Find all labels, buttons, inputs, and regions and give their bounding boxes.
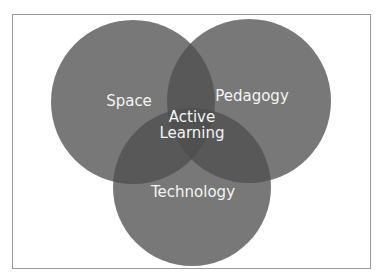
venn-circles <box>51 19 331 266</box>
label-space: Space <box>106 92 152 110</box>
label-technology: Technology <box>150 183 235 201</box>
label-learning: Learning <box>159 124 224 142</box>
label-pedagogy: Pedagogy <box>215 87 289 105</box>
venn-diagram: Space Pedagogy Active Learning Technolog… <box>0 0 382 279</box>
